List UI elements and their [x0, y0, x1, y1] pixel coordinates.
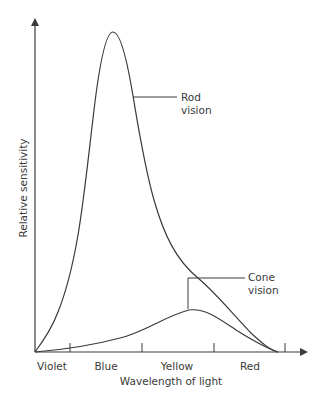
x-axis-title: Wavelength of light	[120, 375, 222, 388]
cone-label-line2: vision	[248, 284, 279, 297]
x-ticks	[70, 343, 285, 352]
cone-label-line1: Cone	[248, 271, 275, 284]
sensitivity-chart	[0, 0, 328, 398]
y-axis-title: Relative sensitivity	[17, 138, 30, 237]
rod-label-line1: Rod	[181, 91, 201, 104]
cone-leader-line	[188, 278, 245, 309]
x-category-violet: Violet	[37, 360, 67, 373]
rod-label-line2: vision	[181, 104, 212, 117]
x-category-red: Red	[240, 360, 260, 373]
x-category-blue: Blue	[94, 360, 117, 373]
x-category-yellow: Yellow	[161, 360, 193, 373]
cone-vision-curve	[35, 310, 278, 352]
rod-vision-curve	[35, 32, 278, 352]
